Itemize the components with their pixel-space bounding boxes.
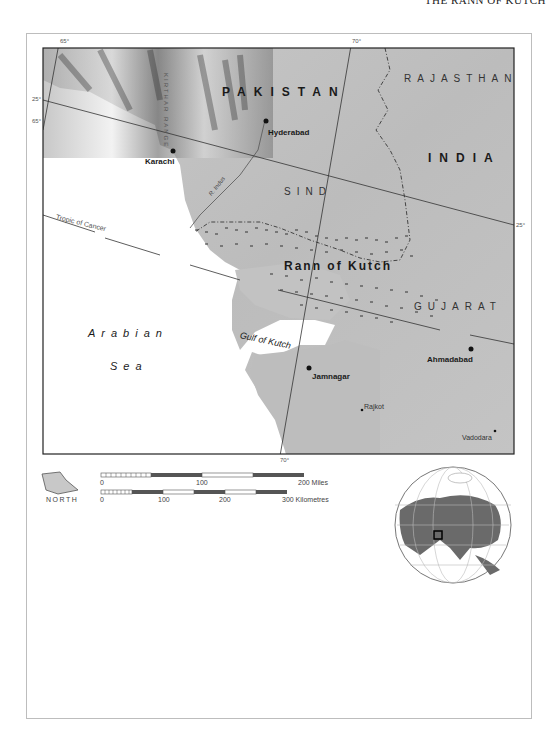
scale-bar-miles [101,473,304,477]
city-vadodara: Vadodara [462,434,492,441]
scale-km-200: 200 [219,496,231,503]
city-jamnagar: Jamnagar [312,372,350,381]
scale-km-100: 100 [158,496,170,503]
region-gujarat: GUJARAT [414,301,502,312]
region-sind: SIND [284,186,332,197]
scale-km-0: 0 [100,496,104,503]
country-india: INDIA [428,151,501,165]
sea-label-arabian: Arabian [88,327,168,339]
north-label: NORTH [46,496,78,503]
lon-70-top: 70° [352,38,361,44]
city-karachi: Karachi [145,157,174,166]
range-label: KIRTHAR RANGE [163,73,169,148]
lon-70-bottom: 70° [280,457,289,463]
lat-25-left: 25° [32,96,41,102]
country-pakistan: PAKISTAN [222,85,346,99]
scale-bar-km [101,490,287,494]
scale-km-300: 300 Kilometres [282,496,329,503]
locator-globe [395,467,511,583]
lon-65-left: 65° [32,118,41,124]
city-rajkot: Rajkot [364,403,384,410]
north-arrow-icon [42,472,78,494]
city-hyderabad: Hyderabad [268,128,309,137]
city-ahmadabad: Ahmadabad [427,355,473,364]
scale-miles-0: 0 [100,479,104,486]
map-canvas [0,0,560,753]
lon-65-top: 65° [60,38,69,44]
region-rajasthan: RAJASTHAN [404,73,517,84]
lat-25-right: 25° [516,222,525,228]
scale-miles-200: 200 Miles [298,479,328,486]
rann-of-kutch-label: Rann of Kutch [284,259,392,273]
scale-miles-100: 100 [196,479,208,486]
sea-label-sea: Sea [110,360,148,372]
